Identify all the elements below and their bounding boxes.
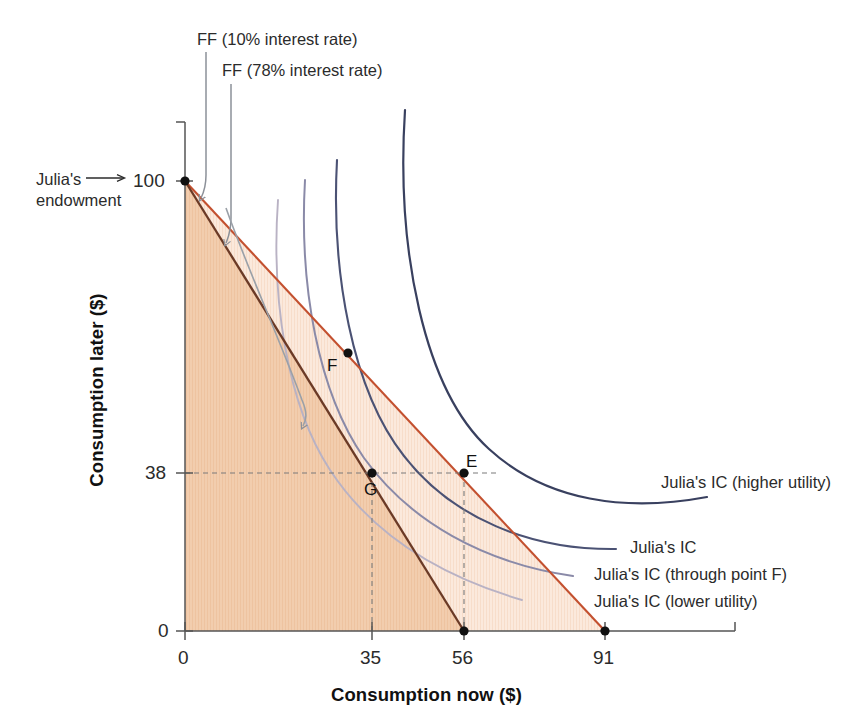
x-axis-title: Consumption now ($) (331, 684, 522, 706)
callout-arrow-ff-10 (201, 52, 206, 198)
endowment-callout-label: Julia's endowment (36, 169, 121, 210)
point-marker-x-intercept-10 (600, 626, 609, 635)
callout-label-ff-78: FF (78% interest rate) (222, 61, 382, 80)
chart-canvas (0, 0, 856, 725)
endowment-callout-line1: Julia's (36, 169, 121, 190)
point-label-e: E (466, 452, 477, 472)
x-tick-label-91: 91 (593, 647, 614, 669)
point-marker-f (343, 348, 352, 357)
endowment-callout-line2: endowment (36, 190, 121, 211)
point-marker-g (367, 468, 376, 477)
y-tick-label-100: 100 (133, 170, 165, 192)
point-marker-endowment (180, 176, 189, 185)
callout-label-ff-10: FF (10% interest rate) (197, 30, 357, 49)
x-tick-label-56: 56 (452, 647, 473, 669)
y-tick-label-38: 38 (145, 462, 166, 484)
x-tick-label-0: 0 (178, 647, 189, 669)
legend-label-higher-utility: Julia's IC (higher utility) (661, 473, 831, 492)
legend-label-lower-utility: Julia's IC (lower utility) (594, 592, 758, 611)
point-label-f: F (327, 356, 337, 376)
economics-chart-figure: FF (10% interest rate) FF (78% interest … (0, 0, 856, 725)
y-axis-title: Consumption later ($) (86, 293, 108, 486)
y-axis-title-wrapper: Consumption later ($) (86, 293, 108, 486)
y-tick-label-0: 0 (158, 620, 169, 642)
legend-label-through-point-f: Julia's IC (through point F) (594, 565, 787, 584)
indifference-curve-higher-utility (403, 110, 707, 503)
legend-label-julias-ic: Julia's IC (630, 538, 696, 557)
point-marker-x-intercept-78 (459, 626, 468, 635)
x-tick-label-35: 35 (360, 647, 381, 669)
point-label-g: G (364, 480, 377, 500)
